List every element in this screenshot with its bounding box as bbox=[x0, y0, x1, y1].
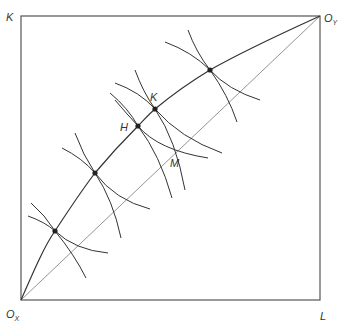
tangency-point-K bbox=[152, 106, 157, 111]
label-H: H bbox=[120, 121, 128, 133]
isoquant-y-5 bbox=[188, 30, 237, 122]
tangency-point-2 bbox=[92, 170, 97, 175]
label-K: K bbox=[150, 91, 158, 103]
isoquant-y-1 bbox=[31, 203, 86, 278]
tangency-point-5 bbox=[207, 67, 212, 72]
edgeworth-box-diagram: K OY OX L H K M bbox=[0, 0, 345, 326]
label-origin-x-sub: X bbox=[14, 315, 20, 322]
label-M: M bbox=[170, 157, 180, 169]
tangency-point-H bbox=[135, 123, 140, 128]
label-L-axis: L bbox=[320, 310, 326, 322]
label-origin-y-sub: Y bbox=[333, 19, 339, 26]
label-K-axis: K bbox=[6, 11, 14, 23]
label-origin-y: OY bbox=[324, 12, 339, 26]
label-origin-x: OX bbox=[6, 308, 20, 322]
isoquant-y-2 bbox=[75, 133, 121, 238]
tangency-point-1 bbox=[52, 228, 57, 233]
